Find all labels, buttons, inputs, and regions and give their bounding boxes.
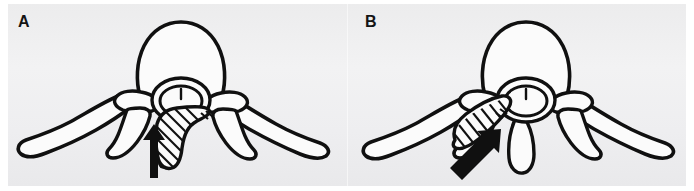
illustration-canvas (0, 0, 694, 191)
figure-container: A B (0, 0, 694, 191)
spinous-process (509, 118, 534, 174)
panel-label-b: B (365, 14, 377, 30)
panel-label-a: A (18, 14, 30, 30)
panel-b-artwork (363, 22, 673, 180)
panel-a-artwork (18, 22, 328, 188)
